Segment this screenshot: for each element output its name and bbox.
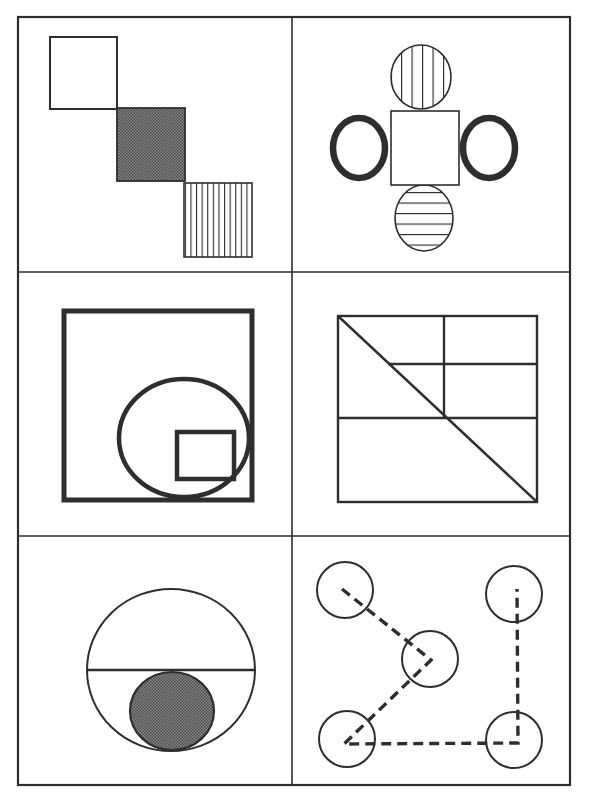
shaded-small-circle [130, 672, 214, 750]
shaded-square [117, 108, 185, 181]
right-thick-ring [463, 118, 515, 178]
panel-6 [317, 562, 542, 768]
panel-5 [87, 589, 255, 751]
horizontal-striped-circle [395, 185, 453, 251]
small-square [177, 432, 234, 479]
left-thick-ring [333, 118, 385, 178]
panel-2 [333, 45, 515, 251]
outlined-square [50, 37, 117, 109]
circle-bottom-right [486, 712, 542, 768]
diagonal-line [338, 316, 537, 502]
panel-1 [50, 37, 252, 257]
circle-top-right [486, 566, 542, 622]
puzzle-figure [0, 0, 589, 797]
center-square [391, 111, 459, 185]
panel-4 [338, 316, 537, 502]
vertical-striped-circle [391, 45, 451, 109]
panel-3 [64, 311, 252, 500]
outer-thick-square [64, 311, 252, 500]
striped-square [184, 183, 252, 257]
